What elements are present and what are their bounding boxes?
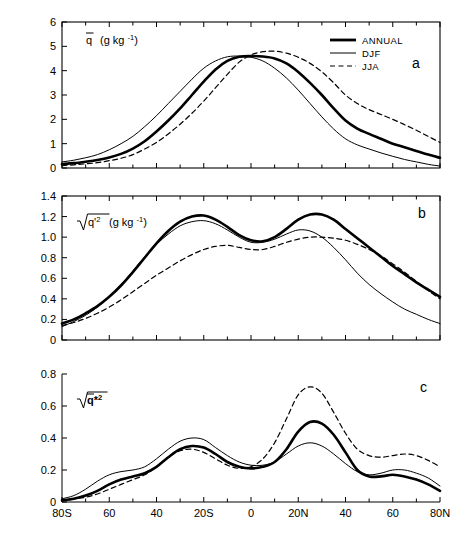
panel-a: 0123456aq(g kg -1)ANNUALDJFJJA <box>0 0 463 182</box>
y-axis-label-a: q(g kg -1) <box>86 33 138 46</box>
curve-djf <box>62 221 440 327</box>
x-tick-label: 80S <box>52 507 72 519</box>
curve-jja <box>62 237 440 326</box>
square-exp: 2 <box>96 215 100 224</box>
y-tick-label: 0 <box>50 334 56 346</box>
x-tick-label: 40 <box>339 507 351 519</box>
panel-c: 00.20.40.60.880S604020S020N406080Ncq*2 <box>0 358 463 533</box>
panel-b-plot: 00.20.40.60.81.01.21.4bq'2(g kg -1) <box>0 178 463 364</box>
x-tick-label: 20S <box>194 507 214 519</box>
y-tick-label: 1.4 <box>41 190 56 202</box>
panel-letter-b: b <box>418 205 426 221</box>
y-axis-label-b: q'2(g kg -1) <box>77 214 147 230</box>
y-tick-label: 0.2 <box>41 464 56 476</box>
legend-label-jja: JJA <box>362 61 379 72</box>
humidity-figure: 0123456aq(g kg -1)ANNUALDJFJJA 00.20.40.… <box>0 0 463 533</box>
y-axis-label-text: q <box>86 34 92 46</box>
y-tick-label: 6 <box>50 16 56 28</box>
panel-c-plot: 00.20.40.60.880S604020S020N406080Ncq*2 <box>0 358 463 533</box>
y-axis-label-text: q'2 <box>88 215 100 228</box>
y-axis-units-full: (g kg -1) <box>109 215 147 228</box>
curve-annual <box>62 421 440 500</box>
exponent: -1 <box>128 33 135 42</box>
x-tick-label: 60 <box>103 507 115 519</box>
curve-jja <box>62 51 440 165</box>
y-axis-units-full: (g kg -1) <box>100 33 138 46</box>
y-tick-label: 0 <box>50 162 56 174</box>
paren-close: ) <box>143 216 147 228</box>
y-tick-label: 1 <box>50 138 56 150</box>
curve-annual <box>62 214 440 324</box>
y-tick-label: 0.6 <box>41 400 56 412</box>
y-tick-label: 4 <box>50 65 56 77</box>
y-tick-label: 1.2 <box>41 211 56 223</box>
x-tick-label: 80N <box>430 507 450 519</box>
legend-label-annual: ANNUAL <box>362 35 403 46</box>
panel-letter-c: c <box>420 379 427 395</box>
paren-close: ) <box>134 34 138 46</box>
curve-annual <box>62 56 440 164</box>
legend-label-djf: DJF <box>362 48 381 59</box>
y-axis-label-c: q*2 <box>77 392 108 408</box>
y-tick-label: 0.8 <box>41 252 56 264</box>
y-tick-label: 3 <box>50 89 56 101</box>
x-tick-label: 20N <box>288 507 308 519</box>
panel-a-plot: 0123456aq(g kg -1)ANNUALDJFJJA <box>0 0 463 182</box>
panel-letter-a: a <box>412 55 420 71</box>
curve-djf <box>62 56 440 166</box>
y-tick-label: 1.0 <box>41 231 56 243</box>
x-tick-label: 40 <box>150 507 162 519</box>
y-tick-label: 0.2 <box>41 313 56 325</box>
y-tick-label: 2 <box>50 113 56 125</box>
panel-b: 00.20.40.60.81.01.21.4bq'2(g kg -1) <box>0 178 463 364</box>
square-exp: 2 <box>98 393 102 402</box>
y-tick-label: 0.4 <box>41 432 56 444</box>
y-tick-label: 0.6 <box>41 272 56 284</box>
y-tick-label: 5 <box>50 40 56 52</box>
y-axis-label-text: q*2 <box>87 393 102 406</box>
exponent: -1 <box>137 215 144 224</box>
x-tick-label: 60 <box>387 507 399 519</box>
x-tick-label: 0 <box>248 507 254 519</box>
curve-jja <box>62 387 440 501</box>
y-tick-label: 0.4 <box>41 293 56 305</box>
y-tick-label: 0.8 <box>41 368 56 380</box>
